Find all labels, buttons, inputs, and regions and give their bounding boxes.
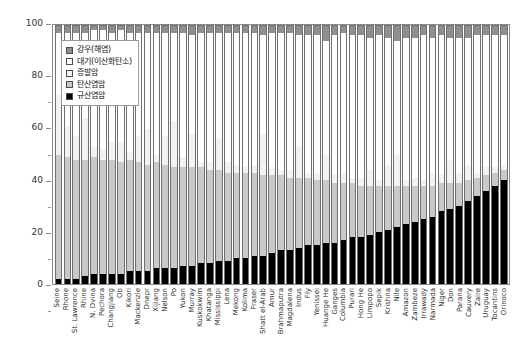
bar-slot[interactable] xyxy=(428,25,437,284)
bar-slot[interactable] xyxy=(268,25,277,284)
bar-slot[interactable] xyxy=(464,25,473,284)
x-tick-label: Xijiang xyxy=(152,288,159,312)
stacked-bar[interactable] xyxy=(402,25,410,284)
bar-slot[interactable] xyxy=(188,25,197,284)
bar-slot[interactable] xyxy=(277,25,286,284)
bar-segment-evaporite xyxy=(224,162,232,172)
legend-item-rain[interactable]: 강우(해염) xyxy=(66,45,132,56)
stacked-bar[interactable] xyxy=(393,25,401,284)
bar-slot[interactable] xyxy=(143,25,152,284)
bar-slot[interactable] xyxy=(339,25,348,284)
stacked-bar[interactable] xyxy=(322,25,330,284)
bar-slot[interactable] xyxy=(490,25,499,284)
bar-slot[interactable] xyxy=(161,25,170,284)
stacked-bar[interactable] xyxy=(224,25,232,284)
stacked-bar[interactable] xyxy=(259,25,267,284)
stacked-bar[interactable] xyxy=(170,25,178,284)
bar-segment-rain xyxy=(473,25,481,35)
stacked-bar[interactable] xyxy=(491,25,499,284)
bar-segment-evaporite xyxy=(295,147,303,178)
bar-slot[interactable] xyxy=(357,25,366,284)
bar-slot[interactable] xyxy=(223,25,232,284)
stacked-bar[interactable] xyxy=(455,25,463,284)
legend-item-carbonate[interactable]: 탄산염암 xyxy=(66,79,132,90)
bar-segment-evaporite xyxy=(99,149,107,159)
stacked-bar[interactable] xyxy=(384,25,392,284)
bar-slot[interactable] xyxy=(205,25,214,284)
stacked-bar[interactable] xyxy=(233,25,241,284)
stacked-bar[interactable] xyxy=(500,25,508,284)
bar-slot[interactable] xyxy=(437,25,446,284)
x-tick-label: Zaire xyxy=(474,288,481,306)
bar-slot[interactable] xyxy=(259,25,268,284)
bar-slot[interactable] xyxy=(384,25,393,284)
stacked-bar[interactable] xyxy=(295,25,303,284)
bar-slot[interactable] xyxy=(330,25,339,284)
bar-segment-rain xyxy=(72,25,80,33)
bar-slot[interactable] xyxy=(482,25,491,284)
bar-slot[interactable] xyxy=(232,25,241,284)
stacked-bar[interactable] xyxy=(446,25,454,284)
bar-slot[interactable] xyxy=(401,25,410,284)
stacked-bar[interactable] xyxy=(429,25,437,284)
bar-slot[interactable] xyxy=(303,25,312,284)
bar-slot[interactable] xyxy=(152,25,161,284)
bar-slot[interactable] xyxy=(321,25,330,284)
stacked-bar[interactable] xyxy=(242,25,250,284)
stacked-bar[interactable] xyxy=(161,25,169,284)
legend-item-evaporite[interactable]: 증발암 xyxy=(66,68,132,79)
x-tick-label: Purari xyxy=(349,288,356,309)
stacked-bar[interactable] xyxy=(366,25,374,284)
stacked-bar[interactable] xyxy=(251,25,259,284)
stacked-bar[interactable] xyxy=(331,25,339,284)
stacked-bar[interactable] xyxy=(375,25,383,284)
bar-slot[interactable] xyxy=(446,25,455,284)
bar-segment-evaporite xyxy=(81,118,89,159)
bar-slot[interactable] xyxy=(197,25,206,284)
stacked-bar[interactable] xyxy=(268,25,276,284)
stacked-bar[interactable] xyxy=(206,25,214,284)
stacked-bar[interactable] xyxy=(277,25,285,284)
bar-slot[interactable] xyxy=(375,25,384,284)
stacked-bar[interactable] xyxy=(349,25,357,284)
stacked-bar[interactable] xyxy=(179,25,187,284)
bar-slot[interactable] xyxy=(312,25,321,284)
bar-slot[interactable] xyxy=(286,25,295,284)
stacked-bar[interactable] xyxy=(482,25,490,284)
stacked-bar[interactable] xyxy=(215,25,223,284)
bar-slot[interactable] xyxy=(348,25,357,284)
bar-slot[interactable] xyxy=(473,25,482,284)
legend-item-silicate[interactable]: 규산염암 xyxy=(66,91,132,102)
stacked-bar[interactable] xyxy=(313,25,321,284)
x-tick-label: Rhone xyxy=(63,288,70,310)
stacked-bar[interactable] xyxy=(153,25,161,284)
stacked-bar[interactable] xyxy=(438,25,446,284)
bar-slot[interactable] xyxy=(419,25,428,284)
bar-slot[interactable] xyxy=(410,25,419,284)
bar-slot[interactable] xyxy=(455,25,464,284)
bar-slot[interactable] xyxy=(170,25,179,284)
legend-item-atmosphere[interactable]: 대기(이산화탄소) xyxy=(66,56,132,67)
stacked-bar[interactable] xyxy=(357,25,365,284)
stacked-bar[interactable] xyxy=(286,25,294,284)
bar-slot[interactable] xyxy=(392,25,401,284)
bar-slot[interactable] xyxy=(294,25,303,284)
stacked-bar[interactable] xyxy=(144,25,152,284)
x-tick-label: Cauvery xyxy=(465,288,472,317)
bar-slot[interactable] xyxy=(179,25,188,284)
stacked-bar[interactable] xyxy=(420,25,428,284)
stacked-bar[interactable] xyxy=(473,25,481,284)
bar-slot[interactable] xyxy=(214,25,223,284)
stacked-bar[interactable] xyxy=(411,25,419,284)
stacked-bar[interactable] xyxy=(304,25,312,284)
stacked-bar[interactable] xyxy=(340,25,348,284)
bar-slot[interactable] xyxy=(366,25,375,284)
stacked-bar[interactable] xyxy=(464,25,472,284)
stacked-bar[interactable] xyxy=(188,25,196,284)
bar-segment-atmosphere xyxy=(268,33,276,168)
stacked-bar[interactable] xyxy=(197,25,205,284)
bar-slot[interactable] xyxy=(499,25,508,284)
bar-slot[interactable] xyxy=(250,25,259,284)
bar-slot[interactable] xyxy=(241,25,250,284)
x-tick-label: Khatanga xyxy=(206,288,213,322)
